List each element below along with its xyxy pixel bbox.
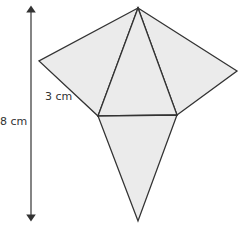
bottom-triangle-face — [98, 115, 177, 221]
height-label: 8 cm — [0, 115, 27, 128]
pyramid-net-diagram: 8 cm 3 cm — [0, 0, 239, 226]
edge-length-label: 3 cm — [45, 90, 72, 103]
